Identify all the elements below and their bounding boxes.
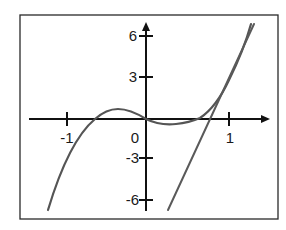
y-tick-label-neg6: -6 [126,191,139,208]
y-axis-arrow-icon [142,22,150,31]
y-tick-label-3: 3 [129,68,137,85]
tangent-line [168,24,254,210]
function-graph: -1 1 0 6 3 -3 -6 [0,0,286,230]
y-tick-label-neg3: -3 [126,149,139,166]
origin-label: 0 [131,129,139,146]
x-tick-label-pos1: 1 [226,129,234,146]
y-tick-label-6: 6 [129,27,137,44]
cubic-curve [48,24,251,210]
plot-frame [20,15,278,219]
x-tick-label-neg1: -1 [60,129,73,146]
x-axis-arrow-icon [261,115,270,123]
x-axis [29,112,270,126]
